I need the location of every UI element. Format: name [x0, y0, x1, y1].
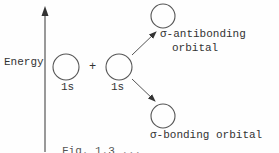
bonding-orbital-circle — [151, 104, 175, 128]
figure-caption-partial: Fig. 1.3 ... — [62, 146, 141, 153]
atomic-orbital-1s-right — [106, 54, 132, 80]
antibonding-orbital-circle — [151, 4, 175, 28]
energy-axis-label: Energy — [4, 57, 44, 68]
atomic-orbital-label-left: 1s — [61, 82, 74, 93]
arrow-to-bonding — [132, 79, 155, 101]
axis-arrowhead-icon — [42, 6, 49, 16]
antibonding-label-line1: σ-antibonding — [160, 29, 246, 40]
energy-axis — [42, 6, 49, 152]
atomic-orbital-1s-left — [53, 54, 79, 80]
bonding-label: σ-bonding orbital — [150, 130, 262, 141]
atomic-orbital-label-right: 1s — [111, 82, 124, 93]
diagram-canvas: Energy 1s + 1s σ-antibonding orbital σ-b… — [0, 0, 279, 153]
antibonding-label-line2: orbital — [172, 43, 218, 54]
plus-sign: + — [89, 61, 96, 73]
arrow-to-antibonding — [132, 32, 156, 55]
